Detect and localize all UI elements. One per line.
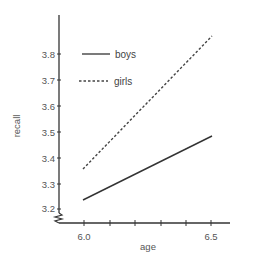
x-tick-label: 6.5: [204, 231, 217, 242]
series-girls: [83, 36, 212, 169]
legend: boys girls: [79, 49, 136, 87]
y-axis-label: recall: [11, 115, 22, 138]
y-axis: 3.8 3.7 3.6 3.5 3.4 3.3 3.2 recall: [11, 15, 62, 223]
x-axis: 6.0 6.5 age: [59, 220, 230, 252]
series-boys: [83, 136, 212, 200]
y-tick-label: 3.3: [42, 179, 55, 190]
axis-break-icon: [55, 213, 62, 223]
y-tick-label: 3.8: [42, 49, 55, 60]
recall-by-age-chart: 3.8 3.7 3.6 3.5 3.4 3.3 3.2 recall 6.0 6…: [0, 0, 264, 263]
legend-label-girls: girls: [114, 76, 132, 87]
legend-item-boys: boys: [82, 49, 136, 60]
legend-item-girls: girls: [79, 76, 132, 87]
x-tick-label: 6.0: [77, 231, 90, 242]
y-tick-label: 3.2: [42, 203, 55, 214]
legend-label-boys: boys: [115, 49, 136, 60]
y-tick-label: 3.6: [42, 101, 55, 112]
y-tick-label: 3.7: [42, 75, 55, 86]
x-axis-label: age: [140, 241, 156, 252]
y-tick-label: 3.5: [42, 127, 55, 138]
y-tick-label: 3.4: [42, 153, 55, 164]
